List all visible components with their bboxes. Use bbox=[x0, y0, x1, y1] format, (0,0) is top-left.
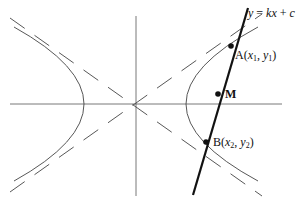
point-a-label: A(x1, y1) bbox=[235, 48, 276, 63]
point-m bbox=[215, 91, 221, 97]
point-m-label: M bbox=[225, 87, 236, 101]
point-b-label: B(x2, y2) bbox=[213, 135, 254, 150]
line-equation-label: y = kx + c bbox=[247, 6, 296, 20]
point-b bbox=[203, 139, 209, 145]
point-a bbox=[228, 43, 234, 49]
hyperbola-diagram: y = kx + c A(x1, y1) M B(x2, y2) bbox=[0, 0, 301, 202]
